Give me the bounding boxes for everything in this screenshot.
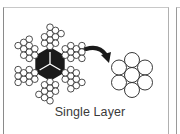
figure-caption: Single Layer	[0, 105, 180, 119]
rope-cross-section-icon	[15, 24, 85, 104]
curved-arrow-icon	[86, 48, 111, 63]
single-layer-strand-icon	[112, 53, 153, 98]
